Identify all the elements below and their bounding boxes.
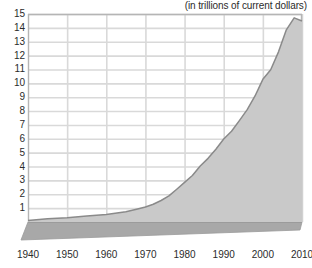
gdp-area-chart: (in trillions of current dollars) 123456… (0, 0, 312, 268)
chart-canvas (0, 0, 312, 268)
base-slab (21, 222, 302, 240)
chart-3d-base (21, 222, 302, 240)
